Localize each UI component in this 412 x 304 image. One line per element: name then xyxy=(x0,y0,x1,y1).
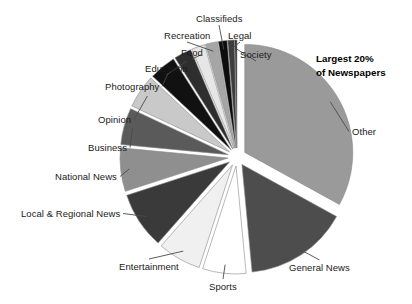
slice-label-photography: Photography xyxy=(105,81,159,92)
largest-newspapers-annotation: Largest 20% of Newspapers xyxy=(316,52,386,80)
pie-chart-canvas xyxy=(0,0,412,304)
annotation-line-1: Largest 20% xyxy=(316,52,386,66)
slice-label-food: Food xyxy=(181,47,203,58)
slice-label-national-news: National News xyxy=(55,171,117,182)
slice-label-general-news: General News xyxy=(289,262,350,273)
slice-label-recreation: Recreation xyxy=(164,30,210,41)
slice-label-opinion: Opinion xyxy=(98,114,131,125)
slice-label-society: Society xyxy=(240,49,272,60)
slice-label-local-regional: Local & Regional News xyxy=(21,208,120,219)
slice-label-sports: Sports xyxy=(209,281,237,292)
slice-label-business: Business xyxy=(88,142,127,153)
slice-label-classifieds: Classifieds xyxy=(196,13,242,24)
slice-label-education: Education xyxy=(145,63,188,74)
slice-label-entertainment: Entertainment xyxy=(119,261,179,272)
annotation-line-2: of Newspapers xyxy=(316,66,386,80)
pie-chart-figure: OtherGeneral NewsSportsEntertainmentLoca… xyxy=(0,0,412,304)
slice-label-other: Other xyxy=(352,126,376,137)
slice-label-legal: Legal xyxy=(228,30,252,41)
